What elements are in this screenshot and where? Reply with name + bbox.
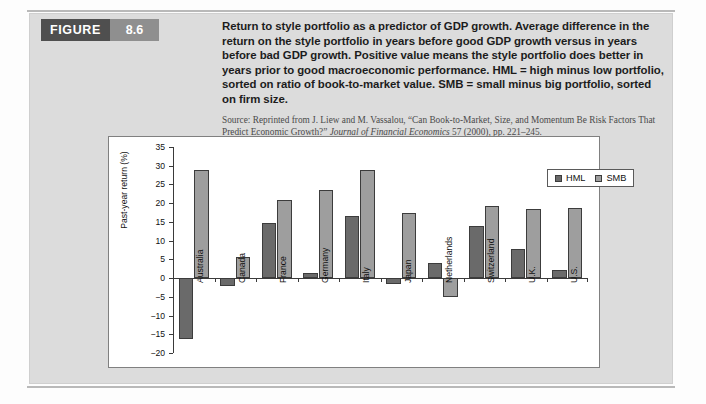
x-tick-mark xyxy=(215,278,216,282)
category-label-us: U.S. xyxy=(570,266,579,283)
category-label-switzerland: Switzerland xyxy=(487,239,496,283)
y-tick-label: 15 xyxy=(135,218,165,227)
bar-hml-switzerland xyxy=(469,226,484,278)
y-tick-mark xyxy=(169,184,173,185)
legend-swatch-hml-icon xyxy=(555,175,562,182)
category-label-canada: Canada xyxy=(238,253,247,283)
category-label-japan: Japan xyxy=(404,260,413,283)
figure-tag: FIGURE 8.6 xyxy=(41,19,159,41)
y-tick-label: 10 xyxy=(135,237,165,246)
y-tick-mark xyxy=(169,166,173,167)
bar-hml-australia xyxy=(179,278,194,339)
bar-hml-us xyxy=(552,270,567,278)
x-tick-mark xyxy=(381,278,382,282)
y-axis-line xyxy=(173,147,174,353)
y-tick-mark xyxy=(169,316,173,317)
y-tick-mark xyxy=(169,203,173,204)
bar-smb-italy xyxy=(360,170,375,278)
x-tick-mark xyxy=(587,278,588,282)
chart-container: Past-year return (%) 35302520151050−5−10… xyxy=(108,136,600,368)
y-tick-label: −20 xyxy=(135,349,165,358)
chart-legend: HML SMB xyxy=(547,169,634,187)
figure-number-label: 8.6 xyxy=(110,19,159,41)
legend-item-hml: HML xyxy=(555,173,585,183)
plot-area: 35302520151050−5−10−15−20 AustraliaCanad… xyxy=(173,147,588,353)
x-tick-mark xyxy=(464,278,465,282)
category-label-australia: Australia xyxy=(196,250,205,283)
category-label-germany: Germany xyxy=(321,248,330,283)
y-tick-label: 25 xyxy=(135,180,165,189)
x-tick-mark xyxy=(173,278,174,282)
y-tick-mark xyxy=(169,334,173,335)
y-tick-label: 30 xyxy=(135,162,165,171)
y-axis-title: Past-year return (%) xyxy=(119,130,129,250)
bottom-rule xyxy=(27,386,675,388)
y-tick-label: 20 xyxy=(135,199,165,208)
x-tick-mark xyxy=(298,278,299,282)
figure-page: FIGURE 8.6 Return to style portfolio as … xyxy=(0,0,706,404)
figure-word-label: FIGURE xyxy=(41,19,110,41)
category-label-netherlands: Netherlands xyxy=(445,237,454,283)
y-tick-label: 35 xyxy=(135,143,165,152)
legend-label-hml: HML xyxy=(566,173,585,183)
category-label-france: France xyxy=(279,256,288,283)
bar-hml-germany xyxy=(303,273,318,278)
y-tick-mark xyxy=(169,222,173,223)
x-tick-mark xyxy=(256,278,257,282)
category-label-italy: Italy xyxy=(362,267,371,283)
caption-main-text: Return to style portfolio as a predictor… xyxy=(222,19,666,107)
y-tick-label: −15 xyxy=(135,330,165,339)
x-tick-mark xyxy=(547,278,548,282)
x-tick-mark xyxy=(505,278,506,282)
y-tick-mark xyxy=(169,147,173,148)
legend-swatch-smb-icon xyxy=(595,175,602,182)
figure-caption: Return to style portfolio as a predictor… xyxy=(222,19,666,138)
x-tick-mark xyxy=(339,278,340,282)
bar-hml-canada xyxy=(220,278,235,285)
y-tick-mark xyxy=(169,259,173,260)
bar-hml-italy xyxy=(345,216,360,278)
y-tick-mark xyxy=(169,241,173,242)
bar-hml-netherlands xyxy=(428,263,443,278)
bar-hml-france xyxy=(262,223,277,278)
y-tick-mark xyxy=(169,297,173,298)
legend-label-smb: SMB xyxy=(606,173,626,183)
y-tick-mark xyxy=(169,353,173,354)
x-tick-mark xyxy=(422,278,423,282)
y-tick-label: −5 xyxy=(135,293,165,302)
legend-item-smb: SMB xyxy=(595,173,626,183)
bar-hml-uk xyxy=(511,249,526,278)
y-tick-label: 5 xyxy=(135,255,165,264)
y-tick-label: 0 xyxy=(135,274,165,283)
bar-hml-japan xyxy=(386,278,401,284)
top-rule xyxy=(27,10,675,12)
category-label-uk: U.K. xyxy=(528,266,537,283)
y-tick-label: −10 xyxy=(135,312,165,321)
caption-source-text: Source: Reprinted from J. Liew and M. Va… xyxy=(222,114,666,139)
